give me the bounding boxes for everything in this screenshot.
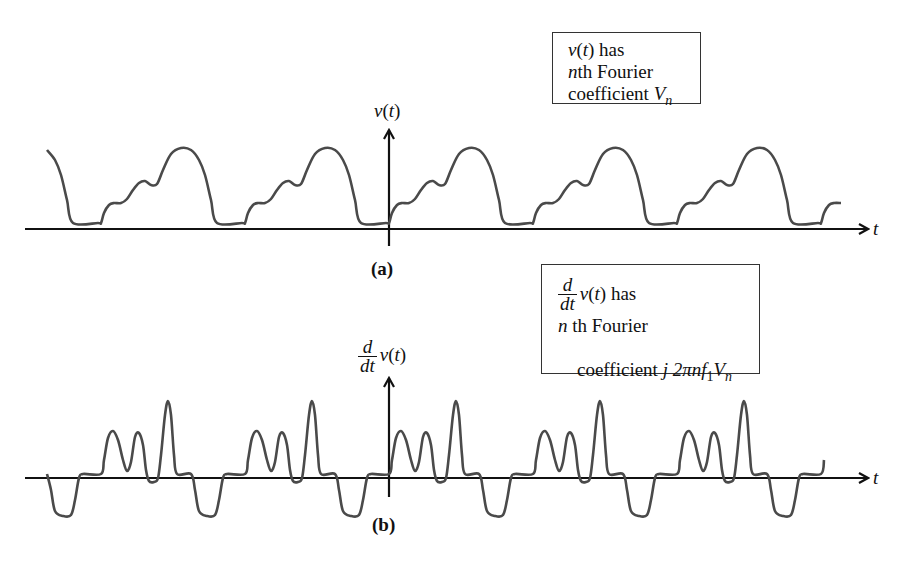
a-info-V: V <box>654 83 666 104</box>
a-info-coefficient: coefficient <box>568 83 654 104</box>
b-info-V-sub: n <box>725 369 732 384</box>
b-info-derivative: ddt <box>558 276 577 313</box>
a-info-line3: coefficient Vn <box>568 83 700 107</box>
b-waveform-derivative <box>47 401 824 517</box>
b-info-line1: ddtv(t) has <box>558 273 759 315</box>
b-y-label-derivative: ddt <box>358 338 377 375</box>
a-info-line2: nth Fourier <box>568 61 700 83</box>
b-info-den: dt <box>558 295 577 313</box>
a-info-box: v(t) has nth Fourier coefficient Vn <box>552 32 701 104</box>
a-info-line1: v(t) has <box>568 39 700 61</box>
a-info-fourier: th Fourier <box>578 61 653 82</box>
figure-canvas <box>0 0 905 583</box>
b-x-axis-label: t <box>873 467 878 489</box>
b-y-label-close: ) <box>400 344 406 365</box>
b-info-fourier: th Fourier <box>568 315 648 336</box>
b-caption: (b) <box>372 514 395 536</box>
b-info-n: n <box>558 315 568 336</box>
b-info-expr: j 2πnf <box>663 359 707 380</box>
a-y-axis-label: v(t) <box>374 100 400 122</box>
b-info-f-sub: 1 <box>706 369 713 384</box>
b-info-fn: v <box>580 283 588 305</box>
b-info-V: V <box>713 359 725 380</box>
a-y-label-close: ) <box>394 100 400 121</box>
a-info-V-sub: n <box>665 93 672 108</box>
b-y-label-den: dt <box>358 357 377 375</box>
b-info-line2: n th Fourier <box>558 315 759 337</box>
b-info-box: ddtv(t) has n th Fourier coefficient j 2… <box>541 264 760 374</box>
b-info-has: ) has <box>600 283 636 305</box>
a-info-n: n <box>568 61 578 82</box>
b-info-coefficient: coefficient <box>577 359 663 380</box>
a-x-axis-label: t <box>873 218 878 240</box>
b-y-axis-label: ddtv(t) <box>358 338 406 375</box>
a-info-has: ) has <box>588 39 624 60</box>
b-info-line3: coefficient j 2πnf1Vn <box>558 337 759 405</box>
b-y-label-fn: v <box>380 344 388 365</box>
a-caption: (a) <box>371 258 393 280</box>
a-waveform-v-of-t <box>47 148 841 225</box>
b-info-num: d <box>558 276 577 295</box>
